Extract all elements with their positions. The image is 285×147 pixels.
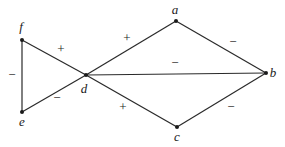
edge-sign-d-b: − (171, 55, 178, 70)
node-label-a: a (172, 2, 179, 17)
node-a (174, 19, 178, 23)
node-f (20, 38, 24, 42)
edge-sign-c-b: − (227, 99, 234, 114)
node-label-b: b (270, 65, 277, 80)
edge-d-a (86, 21, 176, 75)
node-d (84, 73, 88, 77)
edge-sign-f-e: − (8, 67, 15, 82)
node-label-f: f (19, 19, 25, 34)
edge-c-b (177, 73, 266, 127)
node-label-e: e (19, 114, 25, 129)
edge-sign-e-d: − (53, 90, 60, 105)
signed-graph-diagram: +−−++−−− abcdef (0, 0, 285, 147)
node-label-c: c (174, 129, 180, 144)
edge-sign-d-a: + (123, 30, 130, 45)
node-label-d: d (81, 81, 88, 96)
node-b (264, 71, 268, 75)
edge-sign-a-b: − (229, 34, 236, 49)
edge-sign-f-d: + (57, 41, 64, 56)
edge-signs: +−−++−−− (8, 30, 236, 114)
edge-d-b (86, 73, 266, 75)
edge-sign-d-c: + (119, 99, 126, 114)
edge-a-b (176, 21, 266, 73)
edge-d-c (86, 75, 177, 127)
edge-f-d (22, 40, 86, 75)
